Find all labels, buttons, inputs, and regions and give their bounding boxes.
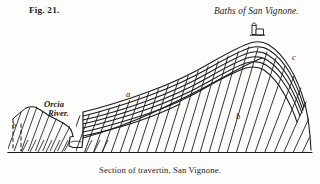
figure-container: Fig. 21. Baths of San Vignone. Orcia Riv… (0, 0, 320, 184)
travertin-strata-beds (83, 42, 305, 136)
strata-key-a: a (126, 91, 130, 99)
river-channel (69, 112, 83, 148)
right-flank-outline (305, 104, 311, 150)
geological-section-drawing (0, 0, 320, 184)
orcia-river-label-line2: River. (44, 109, 69, 118)
orcia-river-label: Orcia River. (44, 100, 69, 119)
figure-caption: Section of travertin, San Vignone. (99, 166, 221, 175)
strata-key-b-left: b (12, 122, 16, 130)
building-icon (250, 23, 265, 36)
figure-number-label: Fig. 21. (29, 6, 59, 15)
strata-key-c: c (292, 54, 296, 62)
strata-key-b-right: b (236, 113, 240, 121)
locality-title-label: Baths of San Vignone. (214, 7, 299, 16)
travertin-mass-hatching (60, 46, 314, 172)
left-bluff-hatching (4, 104, 82, 162)
